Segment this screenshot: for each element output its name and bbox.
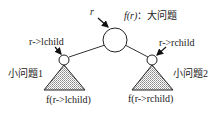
left-subtree-triangle xyxy=(44,65,85,90)
left-child-node xyxy=(59,55,69,65)
right-subtree-triangle xyxy=(132,65,173,90)
root-description: 大问题 xyxy=(147,10,177,21)
right-child-node xyxy=(147,55,157,65)
root-pointer-arrow xyxy=(98,18,108,27)
right-pointer-arrow xyxy=(157,47,166,55)
edge-right xyxy=(125,45,148,57)
tree-diagram: r f(r)：大问题 r->lchild r->rchild 小问题1 小问题2… xyxy=(0,0,217,117)
root-node xyxy=(103,28,127,52)
left-pointer-label: r->lchild xyxy=(29,37,64,47)
edge-left xyxy=(69,45,105,57)
right-pointer-label: r->rchild xyxy=(159,38,194,48)
root-function: f(r) xyxy=(124,10,137,21)
root-separator: ： xyxy=(137,10,147,21)
root-pointer-label: r xyxy=(90,7,94,17)
tree-graphics xyxy=(0,0,217,117)
left-pointer-arrow xyxy=(55,47,61,54)
root-function-label: f(r)：大问题 xyxy=(124,11,177,21)
left-subproblem-label: 小问题1 xyxy=(8,69,43,79)
left-function-label: f(r->lchild) xyxy=(46,95,91,105)
right-function-label: f(r->rchild) xyxy=(128,94,173,104)
right-subproblem-label: 小问题2 xyxy=(173,69,208,79)
